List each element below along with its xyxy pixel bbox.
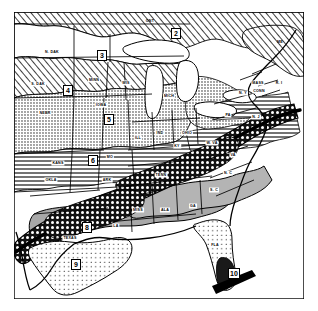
- map-graphic: [0, 0, 318, 311]
- state-label-n-y: N. Y: [238, 91, 248, 96]
- state-label-ala: ALA: [160, 208, 170, 213]
- state-label-ill: ILL: [134, 136, 142, 141]
- state-label-s-c: S. C: [209, 188, 219, 193]
- state-label-wis: WIS: [121, 81, 131, 86]
- state-label-n-j: N. J: [251, 115, 261, 120]
- state-label-texas: TEXAS: [62, 236, 77, 241]
- state-label-mass: MASS: [251, 81, 264, 86]
- state-label-pa: PA: [224, 113, 231, 118]
- state-label-w-va: W. VA: [205, 141, 218, 146]
- state-label-conn: CONN: [252, 89, 266, 94]
- state-label-ind: IND: [156, 131, 165, 136]
- state-label-mich: MICH: [163, 94, 175, 99]
- hardiness-zone-map: N. DAK S. DAK MINN NEBR IOWA WIS MICH KA…: [0, 0, 318, 311]
- state-label-iowa: IOWA: [95, 103, 108, 108]
- state-label-r-i: R. I: [275, 81, 284, 86]
- zone-box-6: 6: [88, 155, 98, 166]
- zone-box-3: 3: [97, 50, 107, 61]
- state-label-n-dak: N. DAK: [44, 50, 60, 55]
- state-label-mo: MO: [106, 155, 114, 160]
- state-label-minn: MINN: [88, 78, 100, 83]
- zone-box-4: 4: [63, 85, 73, 96]
- zone-box-5: 5: [104, 114, 114, 125]
- state-label-n-c: N. C: [223, 171, 233, 176]
- state-label-nebr: NEBR: [38, 111, 51, 116]
- state-label-okla: OKLA: [44, 178, 57, 183]
- state-label-ky: KY: [173, 144, 181, 149]
- zone-box-9: 9: [71, 259, 81, 270]
- state-label-ark: ARK: [102, 178, 113, 183]
- zone-box-10: 10: [228, 268, 240, 279]
- state-label-fla: FLA: [210, 243, 220, 248]
- state-label-ont: ONT: [145, 19, 155, 24]
- state-label-tenn: TENN: [155, 173, 168, 178]
- state-label-la: LA: [112, 224, 119, 229]
- zone-box-8: 8: [82, 222, 92, 233]
- state-label-va: VA: [229, 153, 236, 158]
- state-label-kans: KANS: [51, 161, 64, 166]
- state-label-ohio: OHIO: [181, 131, 193, 136]
- zone-box-2: 2: [171, 28, 181, 39]
- state-label-me: ME: [276, 40, 284, 45]
- state-label-s-dak: S. DAK: [30, 82, 46, 87]
- state-label-miss: MISS: [132, 208, 144, 213]
- state-label-ga: GA: [189, 204, 197, 209]
